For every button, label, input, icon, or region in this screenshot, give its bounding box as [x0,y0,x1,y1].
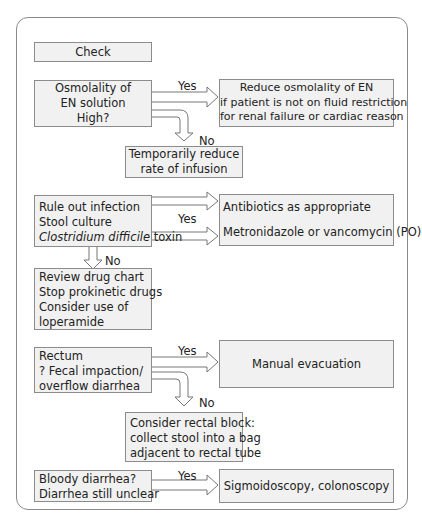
check-box: Check [34,42,152,62]
no-label: No [199,396,215,410]
rectum-question-box: Rectum ? Fecal impaction/ overflow diarr… [34,347,152,393]
manual-evacuation-box: Manual evacuation [219,340,394,388]
yes-arrow-antibiotics [152,192,218,210]
reduce-infusion-box: Temporarily reduce rate of infusion [125,146,243,178]
no-arrow-rectum [152,372,193,406]
no-label: No [105,254,121,268]
yes-label: Yes [178,344,197,358]
yes-label: Yes [178,79,197,93]
review-drugs-box: Review drug chart Stop prokinetic drugs … [34,268,152,330]
rectal-block-box: Consider rectal block: collect stool int… [125,412,243,462]
yes-label: Yes [178,212,197,226]
antibiotics-box: Antibiotics as appropriate Metronidazole… [219,194,394,246]
check-label: Check [35,45,151,60]
no-arrow-osmolality [152,110,193,141]
no-arrow-infection [84,247,102,269]
osmolality-question-box: Osmolality of EN solution High? [34,80,152,127]
infection-question-box: Rule out infection Stool culture Clostri… [34,195,152,247]
reduce-osmolality-box: Reduce osmolality of EN if patient is no… [219,79,394,127]
yes-label: Yes [178,469,197,483]
bloody-question-box: Bloody diarrhea? Diarrhea still unclear [34,470,152,502]
sigmoidoscopy-box: Sigmoidoscopy, colonoscopy [219,469,394,503]
